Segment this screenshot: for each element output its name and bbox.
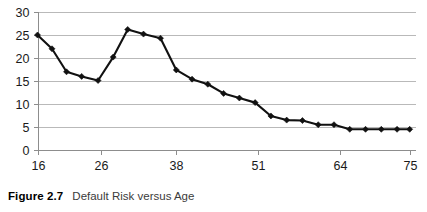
series-line-path xyxy=(38,29,410,129)
data-point-marker xyxy=(315,122,321,128)
x-axis-tick-label: 64 xyxy=(334,159,348,173)
data-point-marker xyxy=(284,117,290,123)
x-axis-tick-label: 38 xyxy=(170,159,184,173)
data-point-marker xyxy=(331,122,337,128)
x-axis-tick-label: 75 xyxy=(404,159,418,173)
x-axis-tick-label: 16 xyxy=(32,159,46,173)
y-axis-tick-label: 5 xyxy=(23,121,30,135)
y-axis-tick-label: 20 xyxy=(16,52,30,66)
x-axis-tick-label: 51 xyxy=(252,159,266,173)
y-axis-tick-label: 15 xyxy=(16,75,30,89)
data-point-marker xyxy=(236,95,242,101)
figure-caption-text: Default Risk versus Age xyxy=(72,190,194,202)
y-axis-tick-label: 25 xyxy=(16,29,30,43)
figure-caption-label: Figure 2.7 xyxy=(8,190,63,202)
y-axis: 051015202530 xyxy=(16,6,39,158)
data-point-marker xyxy=(140,31,146,37)
x-axis: 162638516475 xyxy=(32,150,418,173)
y-axis-tick-label: 10 xyxy=(16,98,30,112)
chart-plot-area: 051015202530 162638516475 xyxy=(0,0,427,178)
line-chart: 051015202530 162638516475 xyxy=(0,0,427,178)
data-point-marker xyxy=(299,118,305,124)
x-axis-tick-label: 26 xyxy=(95,159,109,173)
data-point-marker xyxy=(79,73,85,79)
series-default-risk xyxy=(35,26,413,132)
figure-caption: Figure 2.7Default Risk versus Age xyxy=(8,186,427,204)
y-axis-tick-label: 30 xyxy=(16,6,30,20)
figure-container: 051015202530 162638516475 Figure 2.7Defa… xyxy=(0,0,427,212)
y-axis-tick-label: 0 xyxy=(23,144,30,158)
